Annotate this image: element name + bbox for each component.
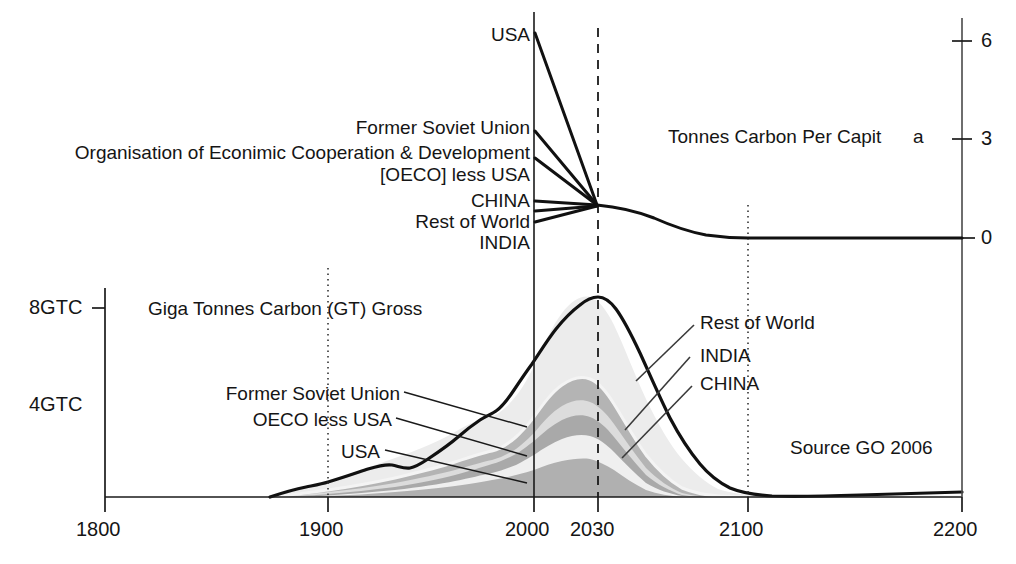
area-label-india: INDIA — [700, 345, 751, 367]
y-tick-label-8gtc: 8GTC — [29, 296, 82, 319]
y-axis-ticks-right — [952, 41, 975, 238]
area-label-former-soviet-union: Former Soviet Union — [120, 383, 400, 405]
line-world-converged — [597, 205, 962, 238]
x-tick-label-1900: 1900 — [299, 518, 344, 541]
area-label-oeco-less-usa: OECO less USA — [120, 409, 392, 431]
x-tick-label-2200: 2200 — [933, 518, 978, 541]
line-usa — [535, 33, 597, 205]
chart-canvas — [0, 0, 1016, 564]
y-tick-label-3: 3 — [981, 127, 992, 150]
y-tick-label-0: 0 — [981, 226, 992, 249]
x-axis-ticks — [105, 497, 962, 512]
gross-axis-title: Giga Tonnes Carbon (GT) Gross — [148, 298, 422, 320]
top-label-former-soviet-union: Former Soviet Union — [230, 117, 530, 139]
line-china — [535, 201, 597, 205]
top-label-rest-of-world: Rest of World — [330, 211, 530, 233]
x-tick-label-2000: 2000 — [505, 518, 550, 541]
y-tick-label-4gtc: 4GTC — [29, 393, 82, 416]
top-label-usa: USA — [290, 24, 530, 46]
source-note: Source GO 2006 — [790, 437, 933, 459]
top-label-china: CHINA — [330, 190, 530, 212]
area-label-usa: USA — [200, 441, 380, 463]
x-tick-label-2100: 2100 — [719, 518, 764, 541]
carbon-emissions-figure: USA Former Soviet Union Organisation of … — [0, 0, 1016, 564]
per-capita-axis-title: Tonnes Carbon Per Capit — [668, 126, 881, 148]
x-tick-label-1800: 1800 — [76, 518, 121, 541]
top-label-oecd-line2: [OECO] less USA — [230, 164, 530, 186]
per-capita-axis-title-suffix: a — [913, 126, 924, 148]
line-former-soviet-union — [535, 131, 597, 205]
area-label-china: CHINA — [700, 373, 759, 395]
x-tick-label-2030: 2030 — [570, 518, 615, 541]
y-tick-label-6: 6 — [981, 29, 992, 52]
area-label-rest-of-world: Rest of World — [700, 312, 815, 334]
top-label-india: INDIA — [330, 232, 530, 254]
top-label-oecd-line1: Organisation of Econimic Cooperation & D… — [10, 142, 530, 164]
leader-rest-of-world — [636, 325, 694, 381]
